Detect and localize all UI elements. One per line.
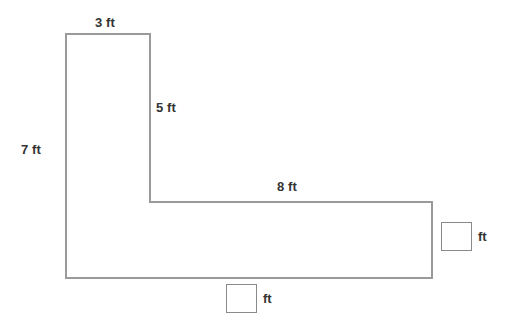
- answer-unit-bottom-side: ft: [263, 291, 272, 306]
- l-shape-polygon: [66, 34, 432, 278]
- answer-group-right-side: ft: [441, 222, 487, 251]
- answer-input-bottom-side[interactable]: [226, 284, 257, 313]
- dimension-label-inner-vertical: 5 ft: [156, 100, 176, 115]
- dimension-label-top-width: 3 ft: [95, 15, 115, 30]
- dimension-label-lower-horizontal: 8 ft: [277, 179, 297, 194]
- answer-group-bottom-side: ft: [226, 284, 272, 313]
- answer-input-right-side[interactable]: [441, 222, 472, 251]
- dimension-label-left-height: 7 ft: [21, 142, 41, 157]
- answer-unit-right-side: ft: [478, 229, 487, 244]
- figure-stage: 3 ft 5 ft 7 ft 8 ft ft ft: [0, 0, 520, 329]
- l-shape-outline: [0, 0, 520, 329]
